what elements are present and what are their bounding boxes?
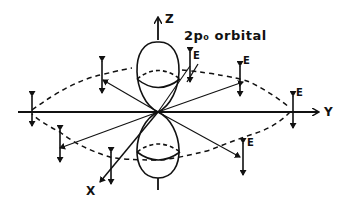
lower-lobe: [137, 112, 180, 178]
diagram-canvas: [0, 0, 350, 211]
e-label-upper-right: E: [243, 56, 250, 66]
upper-lobe: [137, 42, 180, 112]
e-vectors: [32, 52, 293, 184]
e-label-lower-right: E: [247, 138, 254, 148]
x-axis-label: X: [86, 185, 95, 197]
orbital-diagram: 2p₀ orbital Z Y X E E E E: [0, 0, 350, 211]
y-axis-label: Y: [324, 106, 333, 118]
e-label-right: E: [296, 88, 303, 98]
z-axis-label: Z: [165, 13, 174, 25]
diagram-title: 2p₀ orbital: [184, 29, 267, 42]
e-label-top: E: [193, 51, 200, 61]
